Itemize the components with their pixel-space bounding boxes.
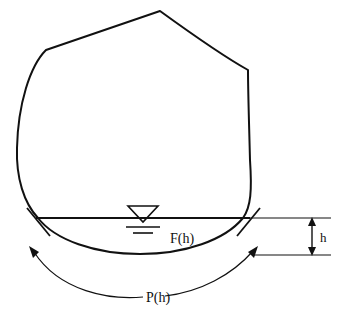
area-label: F(h) xyxy=(170,231,194,247)
water-level-icon xyxy=(128,206,158,222)
perimeter-arc-path xyxy=(34,252,143,298)
perimeter-arc-path-right xyxy=(165,251,253,296)
perimeter-label: P(h) xyxy=(146,290,170,306)
left-section-tick xyxy=(27,208,50,236)
diagram-root: F(h) h P(h) xyxy=(0,0,339,320)
depth-label: h xyxy=(320,230,327,245)
perimeter-arrow-head-right-icon xyxy=(248,246,258,258)
cross-section-diagram: F(h) h P(h) xyxy=(0,0,339,320)
